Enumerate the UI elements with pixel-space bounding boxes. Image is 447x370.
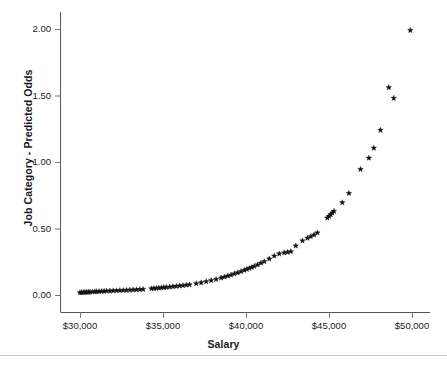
- x-tick-label: $30,000: [63, 320, 97, 331]
- data-point-marker: [386, 85, 392, 90]
- chart-canvas: 0.000.501.001.502.00$30,000$35,000$40,00…: [0, 0, 447, 370]
- y-tick-label: 1.50: [33, 90, 52, 101]
- data-point-marker: [408, 27, 414, 32]
- data-point-marker: [266, 256, 272, 261]
- x-tick-label: $50,000: [395, 320, 429, 331]
- y-tick-label: 0.00: [33, 289, 52, 300]
- data-point-marker: [213, 276, 219, 281]
- x-tick-label: $45,000: [312, 320, 346, 331]
- data-point-marker: [358, 166, 364, 171]
- data-point-marker: [340, 200, 346, 205]
- data-point-marker: [378, 127, 384, 132]
- data-point-marker: [371, 145, 377, 150]
- data-point-marker: [346, 190, 352, 195]
- data-point-marker: [300, 238, 306, 243]
- data-points-group: [77, 27, 413, 295]
- y-tick-label: 2.00: [33, 23, 52, 34]
- data-point-marker: [271, 253, 277, 258]
- data-point-marker: [391, 95, 397, 100]
- x-tick-label: $40,000: [229, 320, 263, 331]
- data-point-marker: [366, 155, 372, 160]
- data-point-marker: [193, 281, 199, 286]
- tick-labels-group: 0.000.501.001.502.00$30,000$35,000$40,00…: [33, 23, 430, 331]
- data-point-marker: [293, 243, 299, 248]
- axes-group: [61, 12, 431, 313]
- y-tick-label: 0.50: [33, 223, 52, 234]
- y-axis-title: Job Category - Predicted Odds: [22, 8, 34, 288]
- chart-figure: 0.000.501.001.502.00$30,000$35,000$40,00…: [0, 0, 447, 370]
- x-tick-label: $35,000: [146, 320, 180, 331]
- y-tick-label: 1.00: [33, 156, 52, 167]
- x-axis-title: Salary: [0, 338, 447, 350]
